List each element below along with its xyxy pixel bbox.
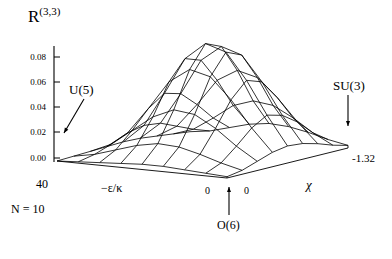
- y-axis-tick-label: 0.04: [20, 103, 46, 112]
- figure-surface-plot: R(3,3) 0.08 0.06 0.04 0.02 0.00 U(5) SU(…: [0, 0, 392, 259]
- surface-plot-canvas: [0, 0, 392, 259]
- title-symbol: R: [28, 7, 39, 26]
- boson-number-label: N = 10: [11, 203, 44, 215]
- axis-zero-label-left: 0: [205, 186, 210, 196]
- annotation-label-u5: U(5): [69, 83, 94, 96]
- y-axis-tick-label: 0.00: [20, 154, 46, 163]
- annotation-label-su3: SU(3): [333, 79, 365, 92]
- chi-axis-min-label: -1.32: [352, 153, 375, 164]
- annotation-label-o6: O(6): [217, 219, 240, 231]
- y-axis-tick-label: 0.02: [20, 128, 46, 137]
- x-axis-max-label: 40: [36, 178, 48, 190]
- x-axis-label: −ε/κ: [101, 182, 122, 194]
- y-axis-tick-label: 0.08: [20, 53, 46, 62]
- chi-axis-label: χ: [306, 178, 312, 191]
- axis-zero-label-right: 0: [244, 186, 249, 196]
- title-superscript: (3,3): [39, 5, 60, 17]
- page-title: R(3,3): [28, 6, 60, 25]
- y-axis-tick-label: 0.06: [20, 78, 46, 87]
